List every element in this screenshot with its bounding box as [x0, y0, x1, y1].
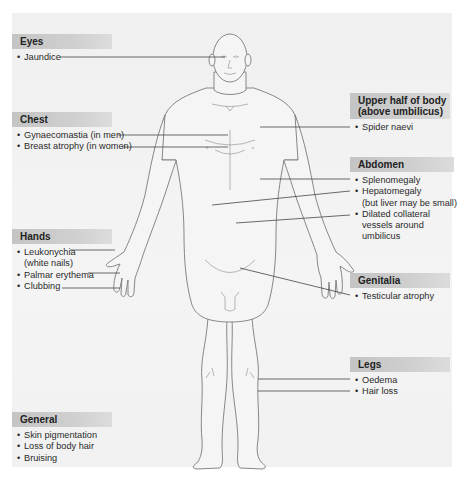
group-header-general: General — [12, 412, 112, 427]
group-header-abdomen: Abdomen — [350, 157, 454, 172]
group-abdomen: Abdomen •Splenomegaly •Hepatomegaly(but … — [350, 157, 454, 242]
right-ear — [245, 54, 251, 66]
list-item: •Loss of body hair — [12, 441, 112, 452]
list-item: •Clubbing — [12, 281, 112, 292]
group-header-eyes: Eyes — [12, 34, 112, 49]
group-upper-body: Upper half of body(above umbilicus) •Spi… — [350, 93, 450, 134]
left-ear — [209, 54, 215, 66]
list-item: •Dilated collateralvessels aroundumbilic… — [350, 209, 454, 243]
right-leg — [232, 318, 266, 469]
list-item: •Leukonychia(white nails) — [12, 247, 112, 269]
list-item: •Spider naevi — [350, 122, 450, 133]
list-item: •Bruising — [12, 453, 112, 464]
group-genitalia: Genitalia •Testicular atrophy — [350, 273, 450, 302]
group-legs: Legs •Oedema •Hair loss — [350, 357, 450, 398]
group-header-hands: Hands — [12, 229, 112, 244]
list-item: •Hair loss — [350, 386, 450, 397]
group-hands: Hands •Leukonychia(white nails) •Palmar … — [12, 229, 112, 292]
group-eyes: Eyes •Jaundice — [12, 34, 112, 63]
list-item: •Breast atrophy (in women) — [12, 141, 112, 152]
torso — [161, 88, 299, 322]
group-chest: Chest •Gynaecomastia (in men) •Breast at… — [12, 112, 112, 153]
list-item: •Skin pigmentation — [12, 430, 112, 441]
left-leg — [193, 318, 227, 469]
list-item: •Hepatomegaly(but liver may be small) — [350, 186, 454, 208]
list-item: •Splenomegaly — [350, 175, 454, 186]
group-header-chest: Chest — [12, 112, 112, 127]
list-item: •Jaundice — [12, 52, 112, 63]
list-item: •Gynaecomastia (in men) — [12, 130, 112, 141]
list-item: •Testicular atrophy — [350, 291, 450, 302]
group-header-legs: Legs — [350, 357, 450, 372]
group-header-genitalia: Genitalia — [350, 273, 450, 288]
group-general: General •Skin pigmentation •Loss of body… — [12, 412, 112, 464]
list-item: •Oedema — [350, 375, 450, 386]
list-item: •Palmar erythema — [12, 270, 112, 281]
group-header-upper-body: Upper half of body(above umbilicus) — [350, 93, 450, 119]
